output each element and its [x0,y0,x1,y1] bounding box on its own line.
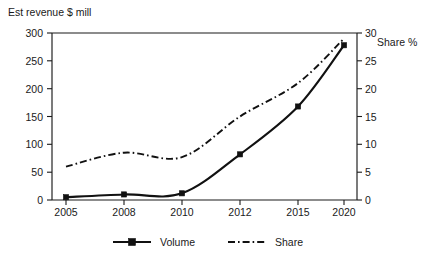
x-tick-label-2015: 2015 [286,206,310,218]
left-tick-label-50: 50 [31,166,43,178]
right-tick-label-10: 10 [365,138,377,150]
right-tick-label-15: 15 [365,111,377,123]
x-tick-label-2008: 2008 [112,206,136,218]
right-axis-tick-labels: 30 25 20 15 10 5 0 [365,27,377,206]
legend-item-share[interactable]: Share [228,236,303,248]
legend-label-volume: Volume [160,236,195,248]
series-volume-group [63,43,346,200]
left-tick-label-100: 100 [25,138,43,150]
left-tick-label-250: 250 [25,55,43,67]
left-axis-title: Est revenue $ mill [8,6,91,18]
x-tick-label-2010: 2010 [170,206,194,218]
left-axis-ticks [47,33,52,200]
data-point-volume-2020 [341,43,346,48]
chart-legend: Volume Share [113,236,303,248]
legend-marker-volume [129,239,136,246]
data-point-volume-2005 [63,195,68,200]
data-point-volume-2010 [179,191,184,196]
right-tick-label-20: 20 [365,83,377,95]
right-tick-label-5: 5 [365,166,371,178]
data-point-volume-2012 [237,152,242,157]
left-axis-tick-labels: 300 250 200 150 100 50 0 [25,27,43,206]
plot-frame [52,33,357,200]
series-volume-line [66,45,344,197]
right-axis-ticks [357,33,362,200]
right-tick-label-30: 30 [365,27,377,39]
dual-axis-line-chart: Est revenue $ mill Share % 300 250 200 1… [0,0,431,260]
left-tick-label-150: 150 [25,111,43,123]
legend-label-share: Share [275,236,303,248]
data-point-volume-2015 [295,104,300,109]
x-tick-label-2005: 2005 [54,206,78,218]
chart-container: Est revenue $ mill Share % 300 250 200 1… [0,0,431,260]
left-tick-label-200: 200 [25,83,43,95]
x-axis-ticks [66,200,344,205]
right-tick-label-0: 0 [365,194,371,206]
x-tick-label-2020: 2020 [332,206,356,218]
right-tick-label-25: 25 [365,55,377,67]
legend-item-volume[interactable]: Volume [113,236,195,248]
series-volume-markers [63,43,346,200]
right-axis-title: Share % [377,36,417,48]
data-point-volume-2008 [121,192,126,197]
left-tick-label-300: 300 [25,27,43,39]
x-axis-tick-labels: 2005 2008 2010 2012 2015 2020 [54,206,356,218]
x-tick-label-2012: 2012 [228,206,252,218]
left-tick-label-0: 0 [37,194,43,206]
